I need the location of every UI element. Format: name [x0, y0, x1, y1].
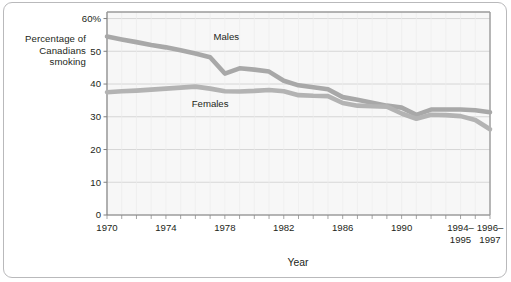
y-tick-label: 20 — [90, 144, 101, 155]
x-tick-label: 1986 — [332, 222, 353, 233]
series-label-females: Females — [192, 98, 229, 109]
x-tick-label: 1978 — [214, 222, 235, 233]
y-tick-label: 10 — [90, 177, 101, 188]
y-tick-label: 60% — [82, 13, 102, 24]
x-axis-tick-labels: 1970197419781982198619901994–19951996–19… — [96, 222, 504, 245]
series-label-males: Males — [214, 31, 240, 42]
y-tick-label: 50 — [90, 46, 101, 57]
figure-container: Percentage of Canadians smoking 01020304… — [0, 0, 511, 282]
y-tick-label: 30 — [90, 111, 101, 122]
x-tick-label: 1982 — [273, 222, 294, 233]
x-axis-title: Year — [288, 257, 310, 268]
y-axis-tick-labels: 0102030405060% — [82, 13, 107, 220]
y-tick-label: 40 — [90, 78, 101, 89]
x-tick-label: 1990 — [391, 222, 412, 233]
x-tick-label: 1994–1995 — [447, 222, 474, 245]
x-tick-label: 1970 — [96, 222, 117, 233]
x-tick-label: 1974 — [155, 222, 177, 233]
line-chart: 0102030405060% 1970197419781982198619901… — [0, 0, 511, 282]
x-tick-label: 1996–1997 — [477, 222, 504, 245]
y-tick-label: 0 — [96, 209, 101, 220]
